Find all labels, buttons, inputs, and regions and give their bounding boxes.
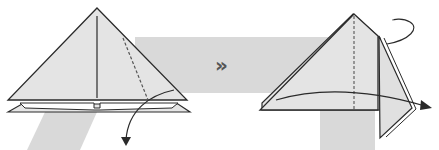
curved-arrow-right-head [420, 100, 432, 110]
band-left-diagonal [27, 112, 97, 150]
step-1-model [8, 8, 190, 146]
fold-arrow-head [121, 137, 131, 146]
band-right-vertical [320, 110, 375, 150]
folded-flap [379, 36, 412, 138]
origami-diagram: » [0, 0, 439, 150]
next-step-symbol: » [215, 53, 228, 77]
loop-arrow [387, 19, 414, 44]
